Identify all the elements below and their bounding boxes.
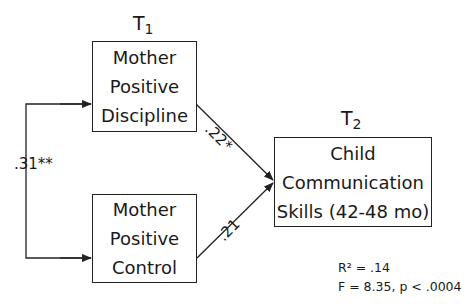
node-line: Mother bbox=[113, 43, 176, 72]
model-stats: R² = .14 F = 8.35, p < .0004 bbox=[338, 258, 462, 296]
node-line: Skills (42-48 mo) bbox=[277, 197, 430, 226]
node-line: Discipline bbox=[101, 101, 188, 130]
node-line: Child bbox=[330, 139, 375, 168]
node-line: Mother bbox=[113, 195, 176, 224]
node-mother-positive-control: Mother Positive Control bbox=[92, 194, 197, 283]
time-label-t2: T2 bbox=[341, 107, 362, 132]
node-line: Positive bbox=[110, 224, 179, 253]
node-line: Control bbox=[112, 253, 177, 282]
node-child-communication-skills: Child Communication Skills (42-48 mo) bbox=[274, 137, 432, 227]
node-mother-positive-discipline: Mother Positive Discipline bbox=[92, 41, 197, 132]
coef-covariance: .31** bbox=[14, 155, 53, 173]
node-line: Positive bbox=[110, 72, 179, 101]
f-statistic: F = 8.35, p < .0004 bbox=[338, 277, 462, 296]
r-squared: R² = .14 bbox=[338, 258, 462, 277]
covariance-line bbox=[26, 104, 91, 258]
node-line: Communication bbox=[282, 168, 424, 197]
time-label-t1: T1 bbox=[133, 12, 154, 37]
